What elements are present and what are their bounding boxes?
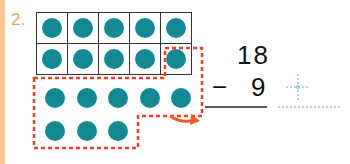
dashed-group-outline bbox=[34, 48, 202, 148]
subtrahend: 9 bbox=[251, 72, 265, 103]
arrow-icon bbox=[170, 116, 194, 121]
minuend: 18 bbox=[237, 40, 270, 71]
minus-sign: − bbox=[212, 72, 227, 103]
answer-input[interactable] bbox=[278, 72, 340, 106]
